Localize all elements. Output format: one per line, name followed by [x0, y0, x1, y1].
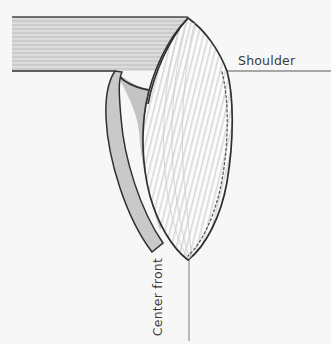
cowl-neckline-drawing [0, 0, 331, 344]
shoulder-label: Shoulder [238, 53, 295, 68]
illustration-canvas: Shoulder Center front [0, 0, 331, 344]
center-front-label: Center front [150, 258, 165, 336]
